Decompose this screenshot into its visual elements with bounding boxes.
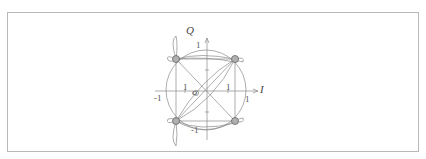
i-tick-pos: 1 [245, 95, 250, 104]
constellation-point-q3 [173, 118, 180, 125]
q-tick-neg: -1 [191, 126, 199, 135]
constellation-point-q1 [232, 56, 239, 63]
i-tick-neg: -1 [154, 94, 162, 103]
q-axis-label: Q [186, 25, 194, 36]
i-tick-neg-half: 1 [183, 83, 188, 92]
constellation-diagram [0, 0, 426, 159]
i-axis-label: I [260, 84, 264, 95]
q-tick-pos: 1 [196, 41, 201, 50]
constellation-point-q4 [232, 118, 239, 125]
constellation-point-q2 [173, 56, 180, 63]
offset-point-label: O [192, 90, 197, 97]
i-tick-pos-half: 1 [226, 83, 231, 92]
